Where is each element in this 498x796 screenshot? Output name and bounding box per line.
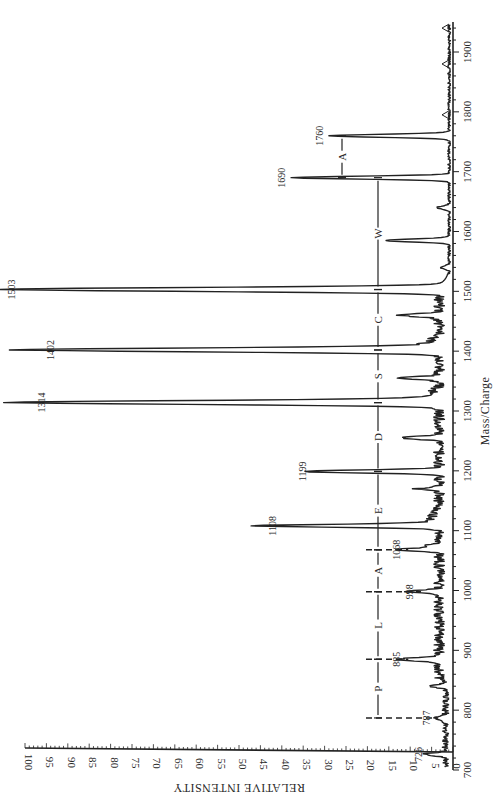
mass-tick-label: 1500 [461,280,473,303]
mass-spectrum-chart: 7008009001000110012001300140015001600170… [0,0,498,796]
intensity-tick-label: 85 [87,757,99,769]
sequence-label: W [372,228,384,239]
intensity-tick-label: 5 [430,763,442,769]
peak-label: 1503 [6,280,17,300]
intensity-tick-label: 15 [387,760,399,772]
sequence-label: S [372,373,384,379]
intensity-tick-label: 70 [151,758,163,770]
spectrum-trace [0,24,450,767]
peak-label: 1690 [276,168,287,188]
intensity-tick-label: 90 [66,757,78,769]
intensity-tick-label: 100 [23,754,35,771]
peak-labels: 7267878859981068110811991314140215031690… [6,126,432,762]
reference-mark [442,111,449,119]
peak-label: 1314 [36,393,47,413]
mass-tick-label: 1300 [461,400,473,423]
intensity-tick-label: 80 [109,757,121,769]
mass-tick-label: 900 [461,642,473,659]
mass-tick-label: 800 [461,701,473,718]
x-axis-title: Mass/Charge [478,377,492,446]
intensity-tick-label: 45 [258,759,270,771]
mass-tick-label: 1900 [461,41,473,64]
intensity-tick-label: 0 [451,763,463,769]
sequence-label: A [336,153,348,161]
sequence-label: A [372,567,384,575]
mass-tick-label: 1600 [461,220,473,243]
sequence-annotations: PLAEDSCWA [336,136,438,718]
intensity-tick-label: 50 [237,759,249,771]
peak-label: 1760 [314,126,325,146]
mass-tick-label: 1000 [461,579,473,602]
peak-label: 726 [413,747,424,762]
mass-tick-label: 1800 [461,100,473,123]
intensity-tick-label: 65 [173,758,185,770]
peak-label: 885 [391,652,402,667]
sequence-label: C [372,316,384,323]
sequence-label: L [372,622,384,629]
intensity-tick-label: 25 [344,760,356,772]
peak-label: 998 [404,584,415,599]
peak-label: 787 [421,710,432,725]
sequence-label: E [372,507,384,514]
peak-label: 1068 [391,540,402,560]
intensity-tick-label: 60 [194,758,206,770]
intensity-tick-label: 20 [365,760,377,772]
mass-tick-label: 1200 [461,459,473,482]
y-axis-title: RELATIVE INTENSITY [173,781,305,795]
intensity-tick-label: 30 [323,759,335,771]
mass-tick-label: 1100 [461,519,473,541]
intensity-tick-label: 40 [280,759,292,771]
intensity-tick-label: 55 [216,758,228,770]
intensity-tick-label: 95 [44,757,56,769]
peak-label: 1108 [267,516,278,536]
peak-label: 1199 [297,462,308,482]
mass-tick-label: 1700 [461,160,473,183]
intensity-tick-label: 75 [130,758,142,770]
sequence-label: P [372,686,384,692]
sequence-label: D [372,433,384,441]
mass-tick-label: 1400 [461,340,473,363]
spectrum-line [0,25,450,767]
peak-label: 1402 [45,340,56,360]
intensity-tick-label: 35 [301,759,313,771]
